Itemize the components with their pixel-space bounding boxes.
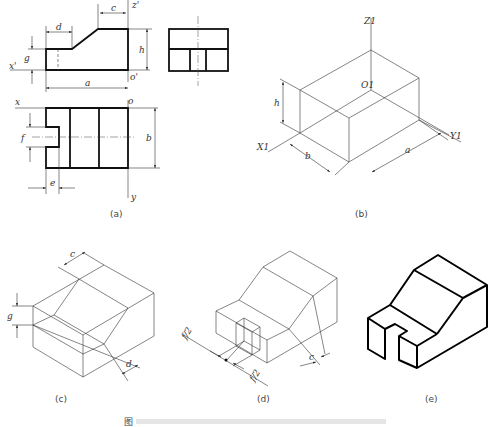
caption-c: (c) — [55, 394, 67, 404]
label-e: e — [50, 178, 55, 188]
x1-axis — [268, 133, 300, 152]
label-c-c: c — [70, 249, 75, 259]
side-view-outline — [169, 29, 228, 71]
label-d-c: d — [126, 359, 132, 369]
panel-e-finished-isometric: (e) — [368, 255, 487, 404]
figure-caption-text: 图 — [124, 417, 133, 427]
label-c: c — [111, 3, 116, 13]
label-a-b: a — [405, 145, 410, 155]
finished-solid — [368, 255, 487, 368]
label-x: x — [15, 97, 20, 107]
label-a: a — [85, 78, 90, 88]
panel-c-slope-construction: c g d (c) — [7, 249, 154, 404]
label-b: b — [146, 133, 152, 143]
panel-b-isometric-box: h b a Z1 O1 X1 Y1 (b) — [256, 16, 462, 219]
label-y1: Y1 — [450, 131, 462, 141]
label-d: d — [56, 22, 62, 32]
caption-a: (a) — [110, 209, 123, 219]
label-z1: Z1 — [363, 16, 376, 26]
label-g: g — [24, 53, 30, 63]
panel-a-orthographic-views: c d g h a z' x' o' f — [9, 0, 228, 219]
caption-b: (b) — [355, 209, 368, 219]
label-z-prime: z' — [131, 0, 139, 10]
box-outline-c — [33, 265, 154, 377]
label-o1: O1 — [361, 80, 374, 90]
box-outline — [300, 50, 419, 162]
label-o-prime: o' — [130, 72, 138, 82]
label-o: o — [128, 96, 134, 106]
label-h-b: h — [274, 98, 280, 108]
label-y: y — [130, 192, 137, 202]
label-h: h — [139, 45, 145, 55]
caption-e: (e) — [425, 394, 438, 404]
figure-caption: 图 — [124, 417, 386, 427]
label-c-d: c — [309, 352, 314, 362]
dim-f2-left — [210, 351, 221, 357]
cropped-caption-text — [136, 419, 386, 424]
label-f2-left: f/2 — [179, 325, 195, 342]
slot-d — [236, 318, 260, 355]
top-view-outline — [46, 108, 128, 168]
label-x1: X1 — [256, 142, 269, 152]
solid-outline-d — [216, 251, 337, 363]
slope-top-edge — [79, 279, 128, 308]
dim-c-d — [321, 353, 330, 357]
label-f: f — [20, 133, 26, 143]
label-g-c: g — [7, 311, 13, 321]
label-b-b: b — [305, 151, 311, 161]
caption-d: (d) — [257, 394, 270, 404]
panel-d-slot-construction: f/2 f/2 c (d) — [179, 251, 337, 404]
label-x-prime: x' — [9, 61, 17, 71]
